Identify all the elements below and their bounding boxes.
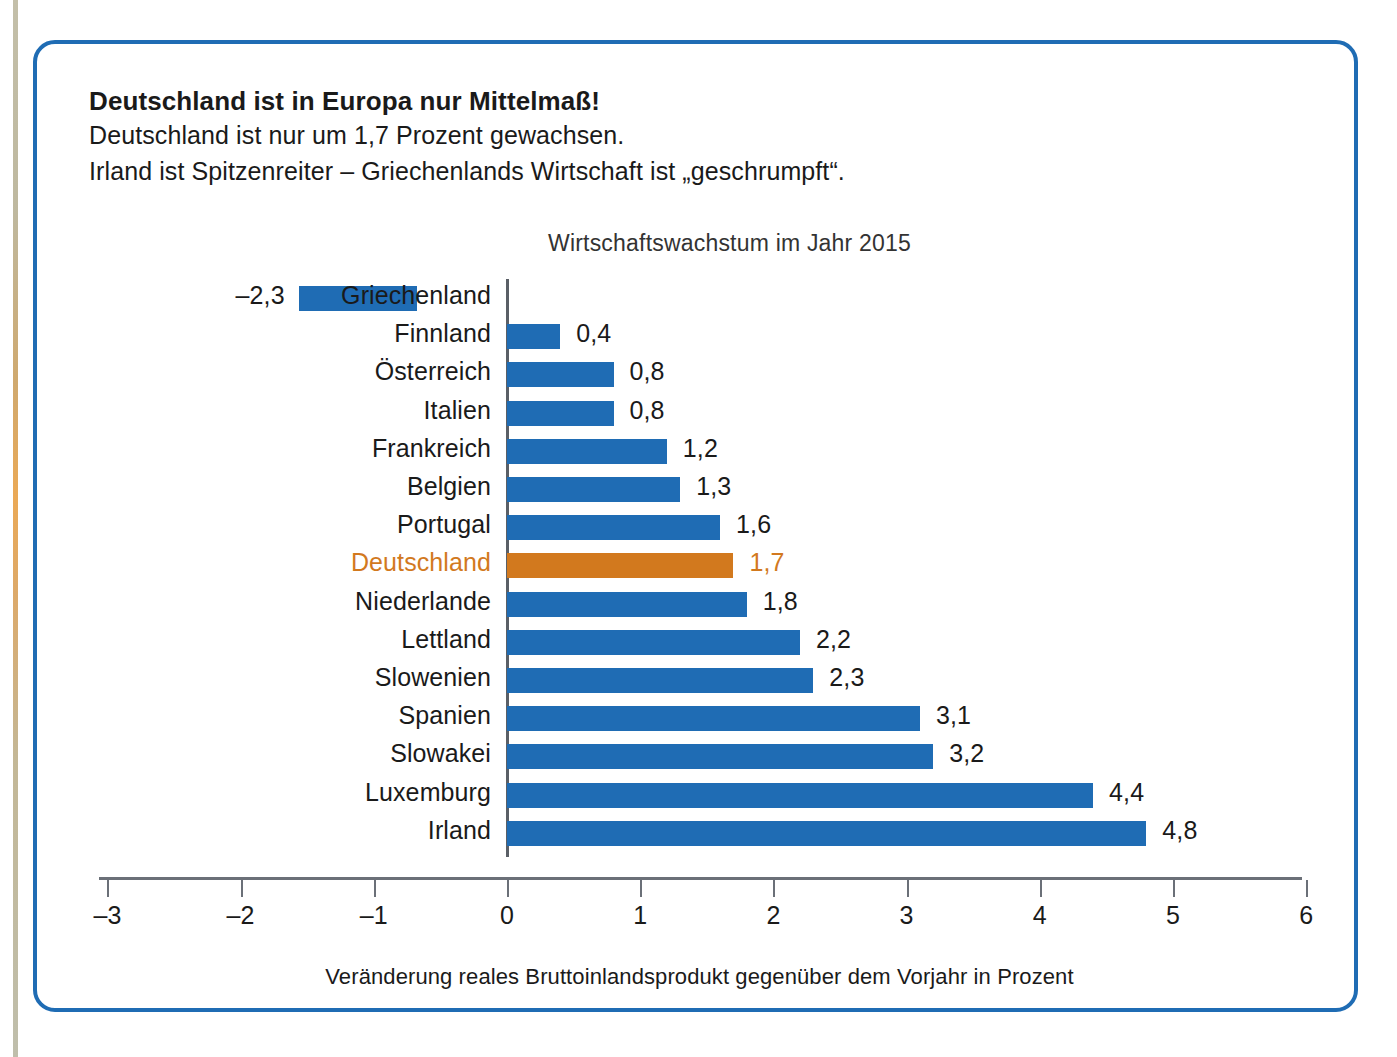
x-tick: [507, 880, 509, 897]
x-axis-line: [99, 877, 1302, 880]
category-label: Deutschland: [351, 548, 491, 577]
x-tick-label: 3: [877, 901, 937, 930]
x-tick: [1040, 880, 1042, 897]
category-label: Slowenien: [375, 663, 491, 692]
bar-chart: Wirtschaftswachstum im Jahr 2015 Grieche…: [37, 44, 1362, 1016]
bar-deutschland: [507, 553, 733, 578]
x-tick-label: 1: [610, 901, 670, 930]
chart-title: Wirtschaftswachstum im Jahr 2015: [37, 230, 1362, 257]
x-tick-label: 6: [1276, 901, 1336, 930]
value-label: –2,3: [236, 281, 285, 310]
value-label: 2,2: [816, 625, 851, 654]
bar-row: Frankreich1,2: [37, 432, 1362, 470]
x-tick: [241, 880, 243, 897]
bar-lettland: [507, 630, 800, 655]
value-label: 3,1: [936, 701, 971, 730]
x-tick: [907, 880, 909, 897]
x-tick-label: 2: [743, 901, 803, 930]
x-tick: [1173, 880, 1175, 897]
value-label: 1,3: [696, 472, 731, 501]
category-label: Belgien: [407, 472, 491, 501]
category-label: Luxemburg: [365, 778, 491, 807]
plot-area: Griechenland–2,3Finnland0,4Österreich0,8…: [37, 279, 1362, 864]
category-label: Spanien: [399, 701, 491, 730]
x-tick: [640, 880, 642, 897]
category-label: Portugal: [397, 510, 491, 539]
bar-row: Irland4,8: [37, 814, 1362, 852]
category-label: Finnland: [394, 319, 491, 348]
x-tick-label: 0: [477, 901, 537, 930]
bar-österreich: [507, 362, 614, 387]
bar-row: Griechenland–2,3: [37, 279, 1362, 317]
bar-luxemburg: [507, 783, 1093, 808]
chart-title-text: Wirtschaftswachstum im Jahr 2015: [488, 230, 911, 256]
bar-row: Italien0,8: [37, 394, 1362, 432]
category-label: Italien: [424, 396, 491, 425]
bar-portugal: [507, 515, 720, 540]
bar-niederlande: [507, 592, 747, 617]
bar-row: Österreich0,8: [37, 355, 1362, 393]
value-label: 3,2: [949, 739, 984, 768]
x-tick-label: –2: [211, 901, 271, 930]
x-tick-label: –1: [344, 901, 404, 930]
x-tick: [374, 880, 376, 897]
bar-spanien: [507, 706, 920, 731]
value-label: 4,8: [1162, 816, 1197, 845]
category-label: Lettland: [401, 625, 491, 654]
bar-italien: [507, 401, 614, 426]
chart-card: Deutschland ist in Europa nur Mittelmaß!…: [33, 40, 1358, 1012]
bar-row: Deutschland1,7: [37, 546, 1362, 584]
bar-row: Finnland0,4: [37, 317, 1362, 355]
bar-irland: [507, 821, 1146, 846]
x-tick-label: 5: [1143, 901, 1203, 930]
category-label: Griechenland: [341, 281, 491, 310]
bar-slowenien: [507, 668, 813, 693]
x-axis-caption: Veränderung reales Bruttoinlandsprodukt …: [37, 964, 1362, 990]
value-label: 1,8: [763, 587, 798, 616]
x-tick: [1306, 880, 1308, 897]
x-tick-label: 4: [1010, 901, 1070, 930]
category-label: Österreich: [375, 357, 491, 386]
bar-row: Slowakei3,2: [37, 737, 1362, 775]
bar-slowakei: [507, 744, 933, 769]
bar-row: Luxemburg4,4: [37, 776, 1362, 814]
value-label: 1,7: [749, 548, 784, 577]
bar-row: Belgien1,3: [37, 470, 1362, 508]
category-label: Niederlande: [355, 587, 491, 616]
bar-row: Spanien3,1: [37, 699, 1362, 737]
bar-row: Niederlande1,8: [37, 585, 1362, 623]
value-label: 1,2: [683, 434, 718, 463]
bar-row: Lettland2,2: [37, 623, 1362, 661]
value-label: 0,4: [576, 319, 611, 348]
x-tick: [107, 880, 109, 897]
x-tick: [773, 880, 775, 897]
value-label: 0,8: [630, 357, 665, 386]
value-label: 1,6: [736, 510, 771, 539]
bar-row: Slowenien2,3: [37, 661, 1362, 699]
bar-belgien: [507, 477, 680, 502]
bar-finnland: [507, 324, 560, 349]
category-label: Frankreich: [372, 434, 491, 463]
category-label: Slowakei: [390, 739, 491, 768]
bar-row: Portugal1,6: [37, 508, 1362, 546]
category-label: Irland: [428, 816, 491, 845]
value-label: 2,3: [829, 663, 864, 692]
x-tick-label: –3: [77, 901, 137, 930]
value-label: 4,4: [1109, 778, 1144, 807]
bar-frankreich: [507, 439, 667, 464]
value-label: 0,8: [630, 396, 665, 425]
page-edge-gradient-strip: [13, 0, 18, 1057]
